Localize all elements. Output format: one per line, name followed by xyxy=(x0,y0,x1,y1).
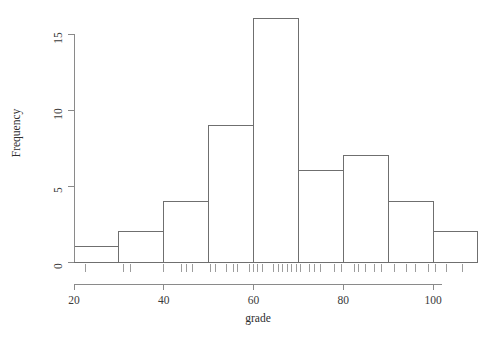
y-tick-label: 5 xyxy=(52,187,64,193)
histogram-bar xyxy=(433,232,478,262)
x-tick-label: 40 xyxy=(158,294,170,306)
x-tick-label: 100 xyxy=(424,294,442,306)
x-tick-label: 60 xyxy=(248,294,260,306)
x-tick-label: 20 xyxy=(68,294,80,306)
x-tick-label: 80 xyxy=(338,294,350,306)
x-axis-title: grade xyxy=(245,312,271,325)
histogram-bar xyxy=(388,201,433,262)
histogram-bar xyxy=(164,201,209,262)
histogram-bar xyxy=(209,125,254,262)
histogram-bar xyxy=(254,19,299,262)
histogram-bar xyxy=(343,156,388,262)
y-tick-label: 15 xyxy=(52,32,64,44)
histogram-plot: 05101520406080100gradeFrequency xyxy=(0,0,481,337)
y-axis-title: Frequency xyxy=(10,108,23,157)
y-tick-label: 10 xyxy=(52,108,64,120)
histogram-bar xyxy=(74,247,119,262)
y-tick-label: 0 xyxy=(52,263,64,269)
histogram-bar xyxy=(119,232,164,262)
chart-canvas: 05101520406080100gradeFrequency xyxy=(0,0,481,337)
histogram-bar xyxy=(298,171,343,262)
